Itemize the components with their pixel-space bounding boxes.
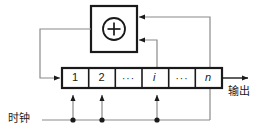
lfsr-block-diagram: 1 2 ··· i ··· n 时钟 输出 xyxy=(0,0,264,138)
junction-dot-2 xyxy=(99,117,104,122)
shift-register-block xyxy=(62,68,222,88)
register-cell-label-2: 2 xyxy=(99,72,105,83)
register-cell-label-ellipsis-right: ··· xyxy=(176,74,189,84)
clock-feed-lines xyxy=(73,95,157,120)
junction-dot-1 xyxy=(70,117,75,122)
register-cell-label-i: i xyxy=(153,72,155,83)
output-label: 输出 xyxy=(228,86,250,97)
register-cell-label-ellipsis-left: ··· xyxy=(122,74,135,84)
register-cell-label-n: n xyxy=(205,72,211,83)
tap-i-wire xyxy=(139,40,157,68)
register-cell-label-1: 1 xyxy=(72,72,78,83)
clock-label: 时钟 xyxy=(8,113,30,124)
adder-block xyxy=(91,6,137,52)
junction-dot-i xyxy=(154,117,159,122)
diagram-canvas xyxy=(0,0,264,138)
